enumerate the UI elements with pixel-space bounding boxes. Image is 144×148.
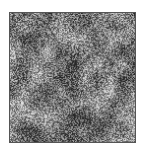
noise-texture-image (9, 12, 136, 143)
noise-canvas (10, 13, 135, 142)
